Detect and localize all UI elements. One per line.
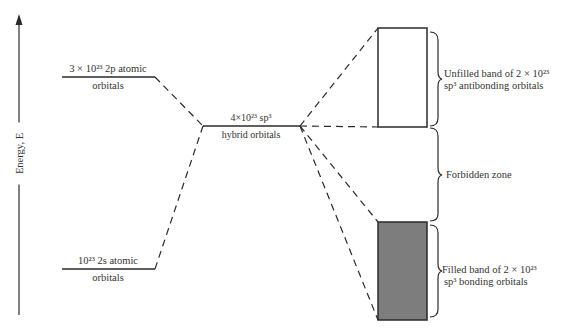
connector-hybrid-antibond-bottom	[300, 126, 378, 127]
connector-hybrid-bond-top	[300, 126, 378, 222]
antibonding-label-line2: sp³ antibonding orbitals	[444, 80, 543, 92]
brace-forbidden	[430, 128, 442, 221]
level-2p-label-bottom: orbitals	[52, 80, 164, 92]
energy-axis-label: Energy, E	[14, 123, 25, 185]
bonding-label-line2: sp³ bonding orbitals	[444, 276, 528, 288]
connector-hybrid-antibond-top	[300, 28, 378, 126]
level-hybrid-label-top: 4×10²³ sp³	[196, 112, 306, 124]
level-2s-label-top: 10²³ 2s atomic	[52, 255, 164, 267]
brace-antibonding	[430, 32, 442, 126]
brace-bonding	[430, 225, 442, 317]
forbidden-zone-label: Forbidden zone	[446, 169, 512, 181]
connector-2s-hybrid	[155, 126, 203, 269]
axis-arrow-icon	[16, 14, 23, 25]
level-2s-label-bottom: orbitals	[52, 272, 164, 284]
antibonding-label-line1: Unfilled band of 2 × 10²³	[444, 68, 549, 80]
level-hybrid-label-bottom: hybrid orbitals	[196, 129, 306, 141]
bonding-band	[378, 222, 427, 320]
bonding-label-line1: Filled band of 2 × 10²³	[442, 264, 537, 276]
level-2p-label-top: 3 × 10²³ 2p atomic	[52, 63, 164, 75]
antibonding-band	[378, 28, 427, 127]
connector-hybrid-bond-bottom	[300, 126, 378, 320]
